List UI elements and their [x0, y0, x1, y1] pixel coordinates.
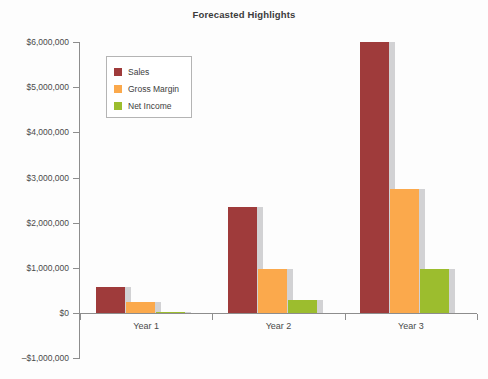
legend-item-label: Gross Margin: [128, 84, 179, 94]
legend-item-sales[interactable]: Sales: [114, 63, 191, 80]
bar-sales-year-2[interactable]: [228, 207, 257, 313]
legend-swatch-icon: [114, 85, 122, 93]
bar-net-income-year-3[interactable]: [420, 269, 449, 313]
bar-net-income-year-2[interactable]: [288, 300, 317, 313]
chart-title: Forecasted Highlights: [0, 9, 488, 20]
legend-item-gross-margin[interactable]: Gross Margin: [114, 80, 191, 97]
legend-item-label: Sales: [128, 67, 149, 77]
y-axis-tick-label: $2,000,000: [26, 218, 69, 228]
forecasted-highlights-chart: Forecasted Highlights $6,000,000$5,000,0…: [0, 0, 488, 379]
bar-sales-year-1[interactable]: [96, 287, 125, 313]
y-axis-tick: [73, 358, 80, 359]
bar-sales-year-3[interactable]: [360, 42, 389, 313]
bar-net-income-year-1[interactable]: [156, 312, 185, 313]
y-axis-tick-label: $0: [60, 308, 69, 318]
y-axis-tick-label: $5,000,000: [26, 82, 69, 92]
bar-gross-margin-year-3[interactable]: [390, 189, 419, 313]
bar-gross-margin-year-1[interactable]: [126, 302, 155, 313]
x-axis-tick: [477, 314, 478, 320]
y-axis-tick-label: $6,000,000: [26, 37, 69, 47]
y-axis-tick-label: $1,000,000: [26, 263, 69, 273]
legend-swatch-icon: [114, 102, 122, 110]
y-axis-tick-label: –$1,000,000: [22, 353, 69, 363]
bar-gross-margin-year-2[interactable]: [258, 269, 287, 313]
legend-swatch-icon: [114, 68, 122, 76]
legend-item-net-income[interactable]: Net Income: [114, 97, 191, 114]
chart-legend: SalesGross MarginNet Income: [106, 56, 192, 118]
legend-item-label: Net Income: [128, 101, 171, 111]
y-axis-tick-label: $4,000,000: [26, 127, 69, 137]
y-axis-tick-label: $3,000,000: [26, 173, 69, 183]
